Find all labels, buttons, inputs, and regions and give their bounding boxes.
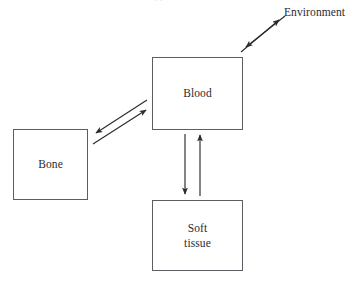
node-soft-tissue-label-line1: Soft xyxy=(188,222,208,234)
node-blood[interactable]: Blood xyxy=(152,57,243,130)
arrow-blood-to-bone xyxy=(96,100,147,133)
arrow-environment-to-blood xyxy=(246,16,285,47)
node-environment-label: Environment xyxy=(284,6,345,18)
node-soft-tissue-label-line2: tissue xyxy=(184,237,211,249)
diagram-canvas: clipped text line Blood Bone xyxy=(0,0,354,289)
node-bone-label: Bone xyxy=(38,157,63,171)
edge-blood-environment xyxy=(241,16,285,52)
arrow-bone-to-blood xyxy=(93,110,146,144)
node-blood-label: Blood xyxy=(183,86,212,100)
node-soft-tissue-label: Soft tissue xyxy=(184,221,211,249)
node-soft-tissue[interactable]: Soft tissue xyxy=(152,200,243,271)
edge-blood-bone xyxy=(93,100,147,144)
edge-blood-soft-tissue xyxy=(185,134,200,196)
node-bone[interactable]: Bone xyxy=(13,129,88,200)
